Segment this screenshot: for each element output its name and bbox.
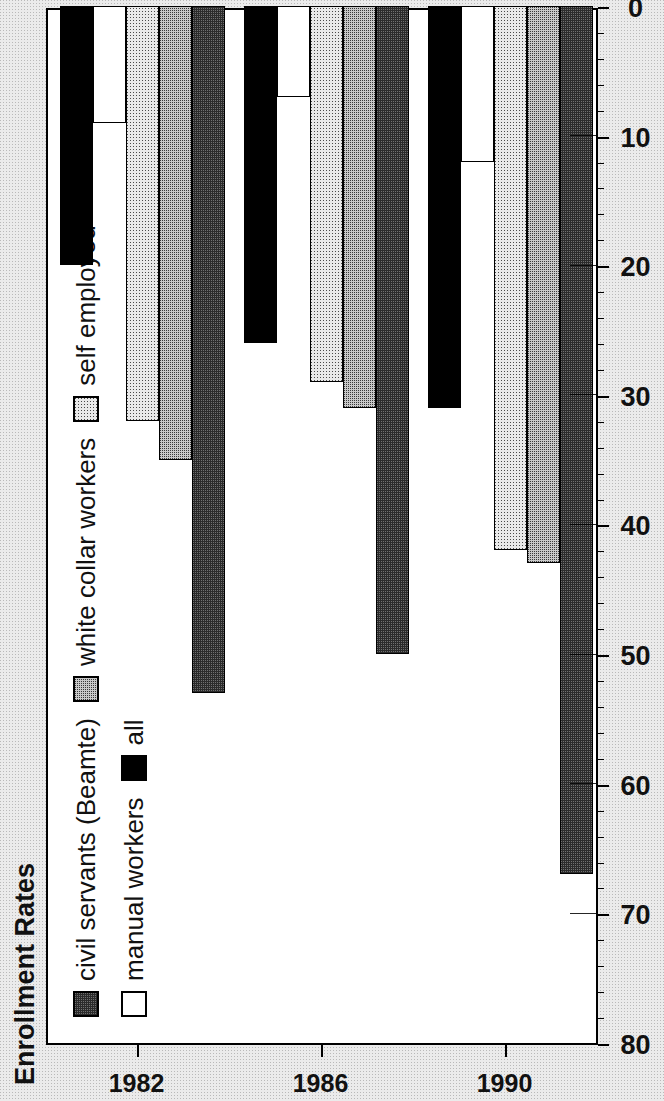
- value-axis-minor-tick: [598, 318, 604, 319]
- value-axis-tick-0: [598, 7, 609, 9]
- rotated-figure-wrapper: Enrollment Rates civil servants (Beamte)…: [0, 0, 664, 1101]
- value-axis-minor-tick: [598, 551, 604, 552]
- value-gridline-50: [570, 654, 596, 655]
- value-axis-label-20: 20: [614, 252, 658, 283]
- value-gridline-20: [570, 265, 596, 266]
- value-axis-tick-20: [598, 266, 609, 268]
- value-axis-tick-30: [598, 396, 609, 398]
- value-axis-label-40: 40: [614, 511, 658, 542]
- value-axis-tick-70: [598, 914, 609, 916]
- value-gridline-60: [570, 783, 596, 784]
- value-axis-minor-tick: [598, 888, 604, 889]
- value-axis-label-70: 70: [614, 900, 658, 931]
- value-axis-minor-tick: [598, 59, 604, 60]
- value-axis-tick-50: [598, 655, 609, 657]
- value-axis-label-60: 60: [614, 770, 658, 801]
- value-axis-minor-tick: [598, 837, 604, 838]
- value-axis-minor-tick: [598, 292, 604, 293]
- value-axis-minor-tick: [598, 1018, 604, 1019]
- value-axis-minor-tick: [598, 474, 604, 475]
- value-axis-minor-tick: [598, 214, 604, 215]
- value-axis-tick-10: [598, 137, 609, 139]
- value-gridline-70: [570, 913, 596, 914]
- category-axis-label-1990: 1990: [460, 1069, 550, 1098]
- value-axis-minor-tick: [598, 188, 604, 189]
- value-axis-label-80: 80: [614, 1030, 658, 1061]
- value-gridline-30: [570, 394, 596, 395]
- value-axis-minor-tick: [598, 422, 604, 423]
- value-axis-minor-tick: [598, 344, 604, 345]
- value-axis-label-0: 0: [614, 0, 658, 24]
- category-axis: 198219861990: [46, 1045, 598, 1101]
- value-axis-minor-tick: [598, 940, 604, 941]
- value-axis-minor-tick: [598, 863, 604, 864]
- value-axis-tick-40: [598, 526, 609, 528]
- value-gridline-layer: [48, 10, 596, 1043]
- value-gridline-40: [570, 524, 596, 525]
- value-axis-minor-tick: [598, 577, 604, 578]
- value-axis-minor-tick: [598, 240, 604, 241]
- category-axis-tick-1986: [321, 1045, 323, 1057]
- value-axis-tick-80: [598, 1044, 609, 1046]
- value-gridline-10: [570, 135, 596, 136]
- value-axis-tick-60: [598, 785, 609, 787]
- value-axis: 80706050403020100: [598, 8, 664, 1045]
- value-axis-minor-tick: [598, 966, 604, 967]
- category-axis-label-1986: 1986: [276, 1069, 366, 1098]
- value-axis-minor-tick: [598, 681, 604, 682]
- value-axis-minor-tick: [598, 629, 604, 630]
- plot-area: civil servants (Beamte) white collar wor…: [46, 8, 598, 1045]
- category-axis-label-1982: 1982: [92, 1069, 182, 1098]
- value-axis-minor-tick: [598, 603, 604, 604]
- value-axis-minor-tick: [598, 811, 604, 812]
- value-axis-minor-tick: [598, 111, 604, 112]
- value-axis-minor-tick: [598, 448, 604, 449]
- value-axis-label-10: 10: [614, 122, 658, 153]
- value-axis-minor-tick: [598, 370, 604, 371]
- value-axis-label-50: 50: [614, 641, 658, 672]
- value-axis-minor-tick: [598, 500, 604, 501]
- value-axis-minor-tick: [598, 759, 604, 760]
- value-axis-minor-tick: [598, 163, 604, 164]
- category-axis-tick-1990: [505, 1045, 507, 1057]
- chart-figure: Enrollment Rates civil servants (Beamte)…: [0, 0, 664, 1101]
- value-axis-minor-tick: [598, 992, 604, 993]
- chart-title: Enrollment Rates: [10, 863, 41, 1085]
- value-axis-minor-tick: [598, 707, 604, 708]
- value-axis-minor-tick: [598, 85, 604, 86]
- category-axis-tick-1982: [137, 1045, 139, 1057]
- value-axis-label-30: 30: [614, 381, 658, 412]
- value-axis-minor-tick: [598, 733, 604, 734]
- value-axis-minor-tick: [598, 33, 604, 34]
